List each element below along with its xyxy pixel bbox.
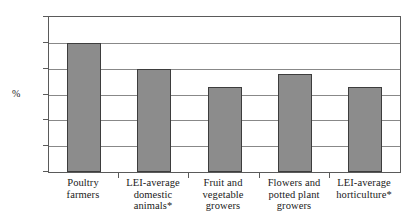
y-axis: 0102030405060%: [0, 0, 48, 223]
bar: [137, 69, 171, 172]
bar: [278, 74, 312, 172]
x-category-label-line: farmers: [48, 189, 118, 201]
x-category-label: Poultryfarmers: [48, 177, 118, 200]
bar: [348, 87, 382, 172]
x-category-label-line: vegetable: [188, 189, 258, 201]
x-category-label-line: animals*: [118, 200, 188, 212]
plot-area: [48, 16, 401, 173]
x-category-label-line: horticulture*: [329, 189, 399, 201]
bar-chart: 0102030405060% PoultryfarmersLEI-average…: [0, 0, 417, 223]
bar: [208, 87, 242, 172]
x-category-label-line: Fruit and: [188, 177, 258, 189]
x-category-label: Flowers andpotted plantgrowers: [259, 177, 329, 212]
x-category-label-line: growers: [188, 200, 258, 212]
x-category-label-line: LEI-average: [329, 177, 399, 189]
x-category-label: LEI-averagedomesticanimals*: [118, 177, 188, 212]
x-category-label-line: Poultry: [48, 177, 118, 189]
bar: [67, 43, 101, 172]
bars-layer: [49, 17, 400, 172]
x-category-label: Fruit andvegetablegrowers: [188, 177, 258, 212]
x-category-label-line: potted plant: [259, 189, 329, 201]
x-category-label-line: LEI-average: [118, 177, 188, 189]
x-category-label: LEI-averagehorticulture*: [329, 177, 399, 200]
x-category-label-line: growers: [259, 200, 329, 212]
x-category-label-line: domestic: [118, 189, 188, 201]
y-axis-unit-label: %: [12, 89, 20, 99]
x-axis-labels: PoultryfarmersLEI-averagedomesticanimals…: [48, 177, 401, 223]
x-category-label-line: Flowers and: [259, 177, 329, 189]
